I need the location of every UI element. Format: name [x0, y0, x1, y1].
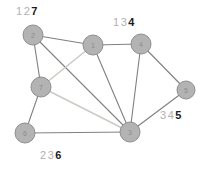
graph-edge — [25, 132, 130, 133]
node-circle — [83, 35, 103, 55]
graph-node-7[interactable]: 7 — [31, 77, 51, 97]
node-circle — [177, 81, 195, 99]
annotation-token: 5 — [175, 109, 183, 121]
label-right: 345 — [160, 110, 183, 121]
nodes-layer: 1234567 — [15, 25, 195, 143]
graph-node-5[interactable]: 5 — [177, 81, 195, 99]
node-circle — [120, 122, 140, 142]
annotation-token: 1 — [113, 16, 121, 28]
annotation-token: 4 — [128, 16, 136, 28]
annotation-token: 6 — [55, 149, 63, 161]
graph-edge — [41, 87, 130, 132]
graph-node-1[interactable]: 1 — [83, 35, 103, 55]
graph-node-6[interactable]: 6 — [15, 123, 35, 143]
label-bottom: 236 — [40, 150, 63, 161]
label-top-left: 127 — [16, 6, 39, 17]
node-circle — [15, 123, 35, 143]
annotation-token: 2 — [40, 149, 48, 161]
node-circle — [131, 34, 151, 54]
graph-node-4[interactable]: 4 — [131, 34, 151, 54]
graph-edge — [130, 44, 141, 132]
node-circle — [31, 77, 51, 97]
graph-node-3[interactable]: 3 — [120, 122, 140, 142]
annotation-token: 7 — [31, 5, 39, 17]
node-circle — [23, 25, 43, 45]
label-top-right: 134 — [113, 17, 136, 28]
graph-node-2[interactable]: 2 — [23, 25, 43, 45]
graph-diagram: 1234567 127134345236 — [0, 0, 212, 169]
annotation-token: 1 — [16, 5, 24, 17]
annotation-token: 3 — [160, 109, 168, 121]
graph-canvas: 1234567 — [0, 0, 212, 169]
graph-edge — [93, 45, 130, 132]
